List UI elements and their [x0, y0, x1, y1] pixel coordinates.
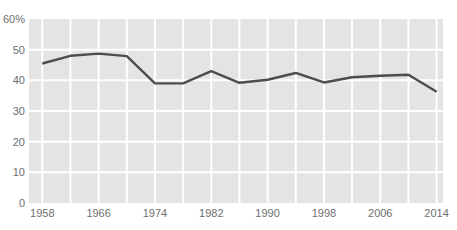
y-axis-tick-label: 30	[0, 105, 25, 117]
x-axis-tick-label: 1998	[302, 207, 346, 219]
x-axis-tick-label: 1966	[77, 207, 121, 219]
line-chart: 60%50403020100 1958196619741982199019982…	[0, 0, 457, 230]
y-axis-tick-label: 40	[0, 74, 25, 86]
plot-area	[29, 19, 443, 203]
x-axis-tick-label: 2014	[415, 207, 457, 219]
plot-svg	[29, 19, 443, 203]
y-axis-tick-label: 50	[0, 44, 25, 56]
y-axis-tick-label: 10	[0, 166, 25, 178]
x-axis-tick-label: 2006	[358, 207, 402, 219]
x-axis-tick-label: 1974	[133, 207, 177, 219]
x-axis-tick-label: 1990	[246, 207, 290, 219]
y-axis-tick-label: 20	[0, 136, 25, 148]
x-axis-tick-label: 1958	[20, 207, 64, 219]
x-axis-tick-label: 1982	[189, 207, 233, 219]
y-axis-tick-label: 60%	[0, 13, 25, 25]
